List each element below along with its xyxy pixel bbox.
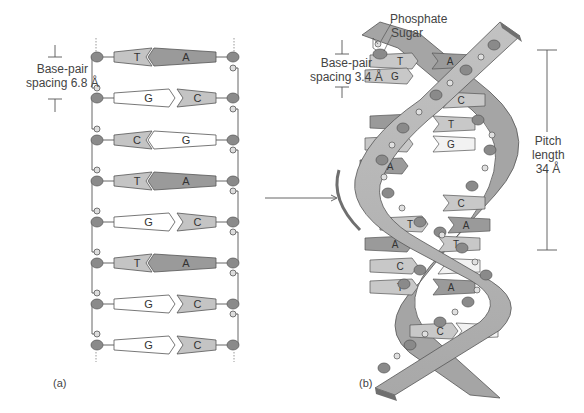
sugar-icon — [414, 217, 426, 227]
sugar-icon — [456, 243, 468, 253]
sugar-icon — [227, 340, 239, 350]
base-right-label: A — [182, 257, 190, 269]
pitch-label-line1: Pitch — [532, 134, 564, 148]
base-left-label: G — [144, 216, 153, 228]
base-pair-row: TA — [91, 48, 239, 66]
arrow-icon — [265, 195, 337, 201]
base-pair-rows: TAGCCGTAGCTAGCGC — [91, 48, 239, 354]
svg-text:C: C — [457, 198, 464, 209]
pitch-label-line3: 34 Å — [532, 162, 564, 176]
base-pair-row: GC — [91, 295, 239, 313]
phosphate-icon — [399, 205, 405, 211]
sugar-icon — [404, 340, 416, 350]
phosphate-icon — [422, 331, 428, 337]
base-right-label: A — [182, 175, 190, 187]
sugar-icon — [227, 93, 239, 103]
svg-text:A: A — [448, 282, 455, 293]
sugar-icon — [484, 145, 496, 155]
ladder-diagram: TAGCCGTAGCTAGCGC — [91, 38, 239, 362]
phosphate-icon — [489, 132, 495, 138]
sugar-icon — [466, 181, 478, 191]
svg-text:T: T — [407, 219, 413, 230]
phosphate-icon — [478, 54, 484, 60]
svg-text:C: C — [396, 261, 403, 272]
svg-text:C: C — [436, 326, 443, 337]
sugar-icon — [91, 93, 103, 103]
spacing-label-b-line1: Base-pair — [310, 56, 383, 70]
base-pair-row: GC — [91, 89, 239, 107]
spacing-label-a: Base-pair spacing 6.8 Å — [26, 62, 99, 90]
pitch-label-line2: length — [532, 148, 564, 162]
base-pair-row: CG — [91, 131, 239, 149]
phosphate-icon — [474, 287, 480, 293]
sugar-icon — [91, 258, 103, 268]
sugar-icon — [472, 115, 484, 125]
phosphate-icon — [482, 165, 488, 171]
sugar-icon — [227, 176, 239, 186]
base-pair-row: TA — [91, 254, 239, 272]
sugar-icon — [460, 65, 472, 75]
phosphate-icon — [472, 259, 478, 265]
sugar-icon — [91, 135, 103, 145]
base-right-label: C — [194, 298, 202, 310]
base-left-label: G — [144, 92, 153, 104]
sugar-icon — [91, 176, 103, 186]
sugar-icon — [91, 340, 103, 350]
sugar-icon — [382, 188, 394, 198]
sugar-icon — [397, 123, 409, 133]
base-right-label: C — [194, 339, 202, 351]
base-right-label: C — [194, 216, 202, 228]
sugar-icon — [434, 317, 446, 327]
sugar-icon — [227, 135, 239, 145]
helix-base-pair: TA — [370, 279, 475, 295]
base-left-label: T — [134, 257, 141, 269]
svg-text:C: C — [457, 95, 464, 106]
base-left-label: G — [144, 298, 153, 310]
phosphate-icon — [381, 174, 387, 180]
sugar-icon — [227, 299, 239, 309]
sugar-icon — [488, 40, 500, 50]
svg-text:A: A — [447, 56, 454, 67]
svg-text:A: A — [463, 220, 470, 231]
phosphate-icon — [389, 142, 395, 148]
sugar-icon — [378, 363, 390, 373]
sugar-icon — [462, 297, 474, 307]
base-pair-row: GC — [91, 213, 239, 231]
sugar-icon — [376, 155, 388, 165]
svg-text:G: G — [391, 71, 399, 82]
pitch-label: Pitch length 34 Å — [532, 134, 564, 176]
phosphate-icon — [394, 353, 400, 359]
base-left-label: G — [144, 339, 153, 351]
phosphate-icon — [416, 109, 422, 115]
svg-text:T: T — [448, 119, 454, 130]
sugar-icon — [414, 265, 426, 275]
base-right-label: G — [182, 134, 191, 146]
base-left-label: C — [133, 134, 141, 146]
sugar-icon — [227, 258, 239, 268]
phosphate-label: Phosphate — [390, 12, 447, 26]
sugar-icon — [227, 52, 239, 62]
base-pair-row: TA — [91, 172, 239, 190]
base-left-label: T — [134, 175, 141, 187]
phosphate-icon — [447, 80, 453, 86]
phosphate-icon — [452, 309, 458, 315]
panel-a-label: (a) — [53, 377, 66, 389]
base-right-label: A — [182, 51, 190, 63]
svg-text:T: T — [397, 56, 403, 67]
sugar-icon — [398, 279, 410, 289]
spacing-label-b-line2: spacing 3.4 Å — [310, 70, 383, 84]
spacing-label-a-line2: spacing 6.8 Å — [26, 76, 99, 90]
svg-text:G: G — [447, 139, 455, 150]
panel-b-label: (b) — [359, 377, 372, 389]
helix-base-pair: C — [443, 195, 485, 211]
sugar-icon — [91, 299, 103, 309]
spacing-label-b: Base-pair spacing 3.4 Å — [310, 56, 383, 84]
spacing-label-a-line1: Base-pair — [26, 62, 99, 76]
sugar-icon — [91, 217, 103, 227]
base-left-label: T — [134, 51, 141, 63]
base-pair-row: GC — [91, 336, 239, 354]
sugar-label: Sugar — [391, 26, 423, 40]
phosphate-icon — [439, 232, 445, 238]
sugar-icon — [480, 270, 492, 280]
sugar-icon — [430, 90, 442, 100]
